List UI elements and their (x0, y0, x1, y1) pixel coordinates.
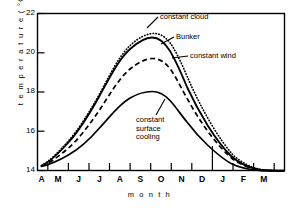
x-tick-label-apr: A (35, 175, 49, 184)
annotation-constant-cloud: constant cloud (160, 13, 208, 22)
x-tick-label-mar: M (257, 175, 271, 184)
x-tick-label-oct: O (154, 175, 168, 184)
x-tick-label-dec: D (195, 175, 209, 184)
x-tick-label-jun: J (72, 175, 86, 184)
annotation-bunker: Bunker (176, 33, 200, 42)
chart-figure: t e m p e r a t u r e ( °C ) 22 20 18 16… (0, 0, 299, 210)
axis-frame (38, 14, 285, 171)
x-tick-label-aug: A (113, 175, 127, 184)
x-tick-label-jul: J (92, 175, 106, 184)
x-tick-label-sep: S (133, 175, 147, 184)
x-axis-title: m o n t h (0, 190, 299, 199)
x-tick-label-feb: F (236, 175, 250, 184)
x-tick-label-nov: N (175, 175, 189, 184)
y-axis-ticks (38, 14, 45, 171)
x-tick-label-may: M (51, 175, 65, 184)
annotation-constant-wind: constant wind (190, 52, 236, 61)
annotation-surface-cooling: constant surface cooling (136, 116, 164, 142)
x-tick-label-jan: J (216, 175, 230, 184)
